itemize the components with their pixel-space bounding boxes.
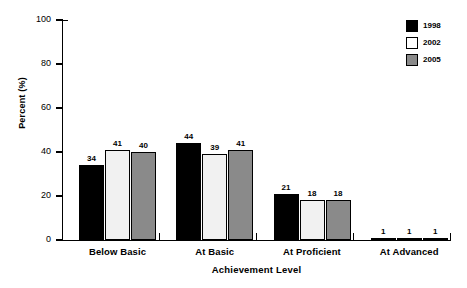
y-axis-line [62,20,63,241]
legend: 199820022005 [406,18,464,69]
black-filled-square-icon [406,20,418,32]
y-axis-top-cap [62,20,68,21]
legend-item-label: 1998 [423,22,441,30]
y-axis-tick [56,63,63,64]
bar-at-basic-2002 [202,154,227,240]
y-axis-tick-label: 0 [11,234,51,244]
legend-item-label: 2002 [423,39,441,47]
bar-value-label: 44 [169,132,209,141]
x-axis-group-label: Below Basic [63,246,173,257]
x-axis-tick [159,233,160,240]
bar-at-advanced-2005 [423,238,448,241]
x-axis-tick [353,233,354,240]
legend-item-2005[interactable]: 2005 [406,52,464,67]
gray-filled-square-icon [406,54,418,66]
white-filled-square-icon [406,37,418,49]
bar-value-label: 40 [124,141,164,150]
bar-chart-figure: Percent (%) 020406080100 344140443941211… [0,0,467,288]
x-axis-group-label: At Advanced [354,246,464,257]
bar-value-label: 18 [318,189,358,198]
y-axis-tick-label: 20 [11,190,51,200]
y-axis-tick-label: 60 [11,102,51,112]
y-axis-tick [56,151,63,152]
bar-at-proficient-2005 [326,200,351,240]
bar-value-label: 41 [221,139,261,148]
bar-value-label: 1 [415,227,455,236]
y-axis-tick-label: 40 [11,146,51,156]
bar-below-basic-1998 [79,165,104,240]
bar-at-basic-2005 [228,150,253,240]
y-axis-tick-label: 100 [11,14,51,24]
bar-at-basic-1998 [176,143,201,240]
x-axis-group-label: At Proficient [257,246,367,257]
bar-at-advanced-1998 [371,238,396,241]
y-axis-tick [56,239,63,240]
y-axis-tick [56,195,63,196]
bar-at-advanced-2002 [397,238,422,241]
x-axis-group-label: At Basic [160,246,270,257]
y-axis-tick [56,107,63,108]
bar-below-basic-2005 [131,152,156,240]
legend-item-label: 2005 [423,56,441,64]
legend-item-2002[interactable]: 2002 [406,35,464,50]
bar-below-basic-2002 [105,150,130,240]
y-axis-tick [56,19,63,20]
bar-at-proficient-1998 [274,194,299,240]
x-axis-tick [256,233,257,240]
bar-at-proficient-2002 [300,200,325,240]
legend-item-1998[interactable]: 1998 [406,18,464,33]
y-axis-tick-label: 80 [11,58,51,68]
x-axis-title: Achievement Level [62,264,451,275]
